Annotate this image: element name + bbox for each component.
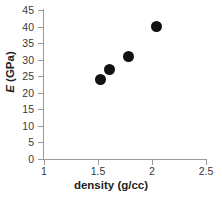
y-axis-tick-label: 20: [4, 88, 34, 99]
y-axis-tick: [38, 142, 43, 143]
x-axis-title: density (g/cc): [0, 179, 222, 191]
x-axis-tick-label: 2: [135, 166, 169, 177]
y-axis-tick: [38, 93, 43, 94]
y-axis-tick: [38, 60, 43, 61]
y-axis-tick-label: 35: [4, 38, 34, 49]
y-axis-tick-label: 40: [4, 22, 34, 33]
y-axis-tick-label: 10: [4, 121, 34, 132]
x-axis-tick-label: 1: [27, 166, 61, 177]
data-point: [104, 64, 115, 75]
x-axis-line: [43, 159, 207, 160]
y-axis-tick: [38, 109, 43, 110]
y-axis-tick: [38, 43, 43, 44]
y-axis-tick: [38, 126, 43, 127]
y-axis-tick: [38, 10, 43, 11]
y-axis-tick: [38, 27, 43, 28]
x-axis-tick-label: 2.5: [189, 166, 222, 177]
chart-figure: density (g/cc) E (GPa) 05101520253035404…: [0, 0, 222, 197]
x-axis-tick-label: 1.5: [81, 166, 115, 177]
y-axis-tick-label: 15: [4, 104, 34, 115]
y-axis-tick: [38, 76, 43, 77]
y-axis-tick: [38, 159, 43, 160]
data-point: [151, 21, 162, 32]
y-axis-tick-label: 0: [4, 154, 34, 165]
data-point: [123, 51, 134, 62]
plot-area: [44, 10, 206, 159]
y-axis-tick-label: 30: [4, 55, 34, 66]
y-axis-tick-label: 5: [4, 137, 34, 148]
y-axis-tick-label: 25: [4, 71, 34, 82]
y-axis-tick-label: 45: [4, 5, 34, 16]
data-point: [95, 74, 106, 85]
